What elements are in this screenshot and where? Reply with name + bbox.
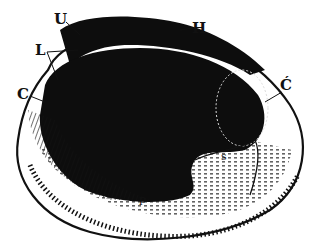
label-pallial-p: p: [139, 194, 146, 205]
label-sinus-s: s: [221, 151, 227, 162]
shell-drawing: [0, 0, 313, 251]
label-anterior-adductor-C: C: [17, 87, 29, 102]
label-umbo-U: U: [54, 12, 67, 27]
label-hinge-H: H: [192, 21, 206, 36]
shell-illustration: U H L C Ć s p: [0, 0, 313, 251]
label-posterior-adductor-C-prime: Ć: [280, 78, 292, 93]
label-ligament-L: L: [35, 43, 46, 58]
